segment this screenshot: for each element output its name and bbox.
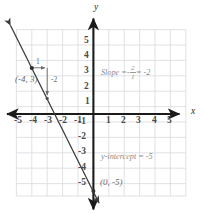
y-axis-label: y xyxy=(94,3,98,13)
slope-equals: = xyxy=(136,68,142,77)
rise-label: -2 xyxy=(51,76,57,84)
y-tick-3: 3 xyxy=(84,66,89,76)
point-label-intercept: (0, -5) xyxy=(100,178,123,187)
x-axis-label: x xyxy=(191,107,195,117)
y-tick--5: -5 xyxy=(78,178,86,188)
y-tick-1: 1 xyxy=(85,97,90,107)
slope-numerator: 2 xyxy=(130,65,136,72)
x-tick-1: 1 xyxy=(106,116,111,126)
slope-annotation: Slope =- 2 1 = -2 xyxy=(101,65,150,81)
y-tick-5: 5 xyxy=(84,36,89,46)
x-tick-4: 4 xyxy=(152,116,157,126)
point-label-upper: (-4, 3) xyxy=(15,75,38,84)
x-tick--4: -4 xyxy=(29,116,37,126)
y-tick-2: 2 xyxy=(84,82,89,92)
y-tick-4: 4 xyxy=(84,51,89,61)
x-tick-3: 3 xyxy=(136,116,141,126)
grid-lines xyxy=(16,30,185,196)
x-tick-2: 2 xyxy=(121,116,126,126)
x-tick--2: -2 xyxy=(59,116,67,126)
graph-figure: y x -5 -4 -3 -2 -1 1 2 3 4 5 5 4 3 2 1 -… xyxy=(0,0,205,214)
y-tick--4: -4 xyxy=(78,163,86,173)
y-tick--1: -1 xyxy=(78,117,86,127)
y-tick--2: -2 xyxy=(78,132,86,142)
point-marker-mid xyxy=(46,97,49,100)
y-tick--3: -3 xyxy=(78,147,86,157)
slope-denominator: 1 xyxy=(130,74,136,81)
x-tick-5: 5 xyxy=(167,116,172,126)
x-tick--3: -3 xyxy=(44,116,52,126)
slope-fraction: 2 1 xyxy=(130,65,136,81)
point-marker-upper xyxy=(30,66,34,70)
x-tick--5: -5 xyxy=(14,116,22,126)
y-intercept-annotation: y-intercept = -5 xyxy=(101,153,153,161)
run-label: 1 xyxy=(36,58,40,66)
point-marker-intercept xyxy=(91,189,95,193)
slope-prefix: Slope = xyxy=(101,68,127,77)
slope-result: -2 xyxy=(144,68,151,77)
